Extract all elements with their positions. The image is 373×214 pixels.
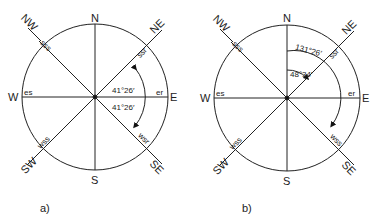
marker-sw: wss [227,135,244,152]
label-ne: NE [147,16,166,35]
caption-b: b) [242,202,252,214]
marker-w: es [24,88,32,97]
label-n: N [91,12,99,24]
label-w: W [200,92,211,104]
label-se: SE [340,159,359,178]
marker-ne: ssr [135,46,149,60]
angle-outer: 131°26′ [294,43,323,59]
angle-lower: 41°26′ [112,103,135,112]
marker-se: wsr [136,130,152,146]
label-sw: SW [18,154,39,175]
compass-a-labels: N S W E NW NE SW SE sss ssr es er wss ws… [8,11,177,214]
label-nw: NW [19,11,41,33]
marker-ne: ssr [327,47,341,61]
label-ne: NE [339,17,358,36]
label-sw: SW [210,155,231,176]
marker-e: er [348,89,355,98]
compass-diagrams: N S W E NW NE SW SE sss ssr es er wss ws… [0,0,373,214]
label-s: S [91,174,98,186]
label-n: N [283,12,291,24]
label-w: W [8,91,19,103]
angle-inner: 48°34′ [290,70,313,79]
caption-a: a) [40,202,50,214]
marker-sw: wss [35,134,52,151]
label-se: SE [148,158,167,177]
label-nw: NW [211,12,233,34]
marker-w: es [216,89,224,98]
label-e: E [362,92,369,104]
marker-e: er [156,88,163,97]
label-e: E [170,91,177,103]
compass-b-labels: N S W E NW NE SW SE sss ssr es er wss ws… [200,12,369,214]
label-s: S [283,175,290,187]
angle-upper: 41°26′ [112,86,135,95]
